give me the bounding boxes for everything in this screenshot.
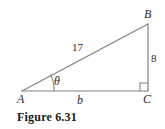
side-label-adjacent: b (77, 94, 83, 106)
side-hypotenuse-line (22, 24, 148, 91)
side-label-hypotenuse: 17 (72, 42, 83, 53)
side-label-opposite: 8 (151, 53, 157, 64)
right-angle-marker (140, 83, 148, 91)
angle-label-theta: θ (54, 75, 60, 87)
figure-container: A B C 17 8 b θ Figure 6.31 (0, 0, 165, 129)
vertex-label-a: A (17, 93, 24, 105)
figure-caption: Figure 6.31 (17, 110, 77, 125)
vertex-label-b: B (144, 8, 151, 20)
vertex-label-c: C (143, 93, 151, 105)
